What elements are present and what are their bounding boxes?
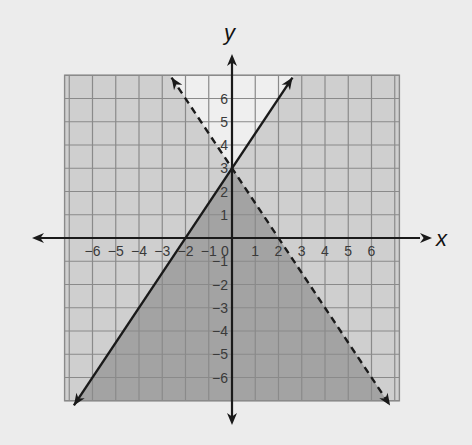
- x-tick-label: −5: [108, 243, 124, 259]
- x-tick-label: 6: [368, 243, 376, 259]
- x-tick-label: 4: [321, 243, 329, 259]
- x-tick-label: 2: [275, 243, 283, 259]
- y-axis-label: y: [222, 20, 237, 45]
- x-axis-label: x: [435, 226, 448, 251]
- x-tick-label: 3: [298, 243, 306, 259]
- x-axis-arrow-right-icon: [420, 233, 432, 243]
- inequality-graph: −6−5−4−3−2−10123456−6−5−4−3−2−1123456 x …: [0, 0, 472, 445]
- x-tick-label: −3: [154, 243, 170, 259]
- y-tick-label: −4: [212, 323, 228, 339]
- y-tick-label: 1: [220, 207, 228, 223]
- y-tick-label: −5: [212, 346, 228, 362]
- y-tick-label: −1: [212, 253, 228, 269]
- y-tick-label: 3: [220, 160, 228, 176]
- x-tick-label: 1: [251, 243, 259, 259]
- y-tick-label: 2: [220, 184, 228, 200]
- x-tick-label: −2: [178, 243, 194, 259]
- y-tick-label: −2: [212, 277, 228, 293]
- y-tick-label: 6: [220, 91, 228, 107]
- x-tick-label: 5: [344, 243, 352, 259]
- y-tick-label: 5: [220, 114, 228, 130]
- x-tick-label: −4: [131, 243, 147, 259]
- y-tick-label: 4: [220, 137, 228, 153]
- y-tick-label: −6: [212, 370, 228, 386]
- y-tick-label: −3: [212, 300, 228, 316]
- x-tick-label: −6: [85, 243, 101, 259]
